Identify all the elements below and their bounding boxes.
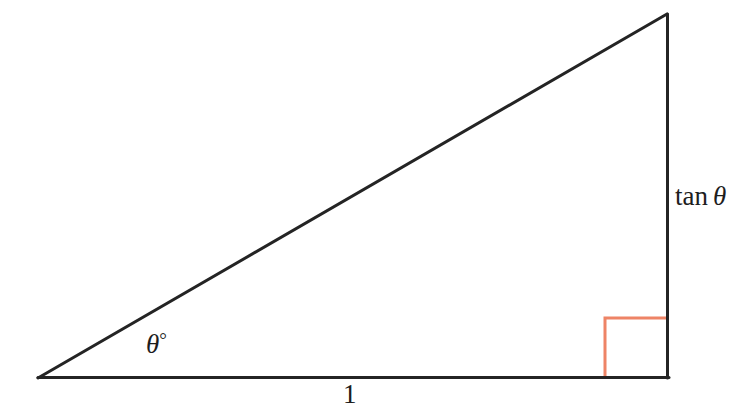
side-label-base-length: 1: [343, 381, 357, 408]
side-label-opposite-length: tanθ: [675, 183, 726, 210]
side-label-tan-function: tan: [675, 181, 708, 211]
angle-label-degree-glyph: °: [159, 329, 167, 350]
angle-label-theta-degrees: θ°: [146, 330, 167, 358]
diagram-background: [0, 0, 755, 415]
triangle-diagram-svg: [0, 0, 755, 415]
triangle-diagram-canvas: θ° 1 tanθ: [0, 0, 755, 415]
side-label-theta-glyph: θ: [713, 181, 726, 211]
angle-label-theta-glyph: θ: [146, 329, 159, 359]
